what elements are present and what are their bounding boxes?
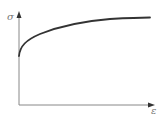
- stress-strain-chart: [0, 0, 166, 131]
- x-axis-label: ε: [151, 106, 156, 116]
- y-axis-arrow-icon: [17, 11, 22, 18]
- stress-strain-curve: [19, 18, 150, 57]
- y-axis-label: σ: [7, 12, 14, 22]
